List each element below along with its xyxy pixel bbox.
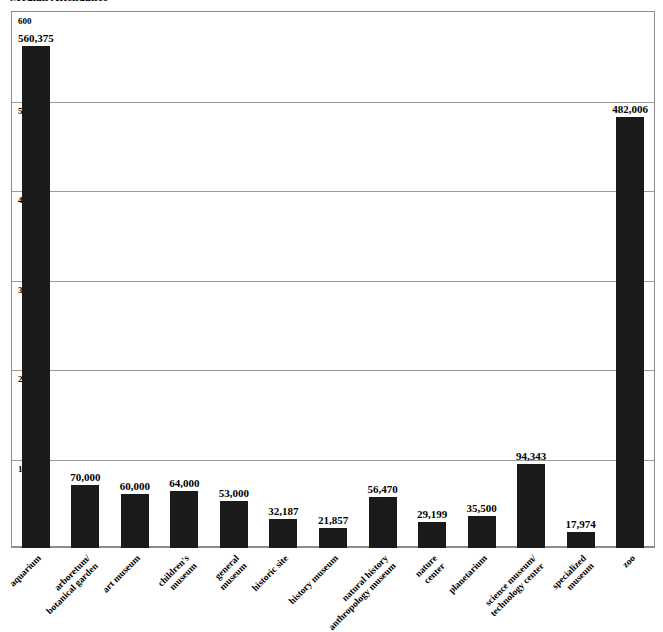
x-axis-labels: aquariumarboretum/botanical gardenart mu… (11, 551, 655, 624)
bar[interactable] (369, 497, 397, 548)
bar[interactable] (22, 46, 50, 548)
bar-slot: 56,470 (358, 11, 408, 548)
bar[interactable] (616, 117, 644, 548)
bar-value-label: 482,006 (594, 103, 663, 115)
bar-slot: 94,343 (506, 11, 556, 548)
bar[interactable] (418, 522, 446, 548)
bar-slot: 35,500 (457, 11, 507, 548)
x-axis-label-slot: children'smuseum (160, 551, 210, 624)
bar[interactable] (517, 464, 545, 548)
x-axis-label-slot: natural historyanthropology museum (358, 551, 408, 624)
bar-slot: 60,000 (110, 11, 160, 548)
x-axis-category-label: generalmuseum (210, 553, 249, 592)
x-axis-label-slot: art museum (110, 551, 160, 624)
bar-slot: 53,000 (209, 11, 259, 548)
x-axis-label-slot: zoo (605, 551, 655, 624)
x-axis-label-slot: science museum/technology center (506, 551, 556, 624)
x-axis-label-line: zoo (621, 553, 638, 570)
bar[interactable] (71, 485, 99, 548)
bar[interactable] (567, 532, 595, 548)
x-axis-category-label: naturecenter (413, 553, 447, 587)
x-axis-category-label: specializedmuseum (550, 553, 596, 599)
bar[interactable] (121, 494, 149, 548)
bar-slot: 70,000 (61, 11, 111, 548)
x-axis-label-slot: specializedmuseum (556, 551, 606, 624)
bar[interactable] (269, 519, 297, 548)
bar-slot: 560,375 (11, 11, 61, 548)
bar[interactable] (319, 528, 347, 548)
x-axis-category-label: zoo (621, 553, 638, 570)
bar-slot: 21,857 (308, 11, 358, 548)
bar[interactable] (170, 491, 198, 548)
x-axis-category-label: aquarium (7, 553, 43, 589)
bar-slot: 17,974 (556, 11, 606, 548)
bars-layer: 560,37570,00060,00064,00053,00032,18721,… (11, 11, 655, 548)
bar-slot: 32,187 (259, 11, 309, 548)
bar-slot: 64,000 (160, 11, 210, 548)
x-axis-category-label: children'smuseum (156, 553, 199, 596)
x-axis-label-line: aquarium (7, 553, 43, 589)
bar[interactable] (220, 501, 248, 548)
bar-slot: 29,199 (407, 11, 457, 548)
bar-slot: 482,006 (605, 11, 655, 548)
bar[interactable] (468, 516, 496, 548)
chart-title: Median Attendance (10, 0, 108, 3)
